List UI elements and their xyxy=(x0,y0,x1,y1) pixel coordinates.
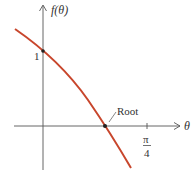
function-plot xyxy=(0,0,195,177)
x-axis-label: θ xyxy=(184,120,190,132)
y-axis-label: f(θ) xyxy=(51,4,68,16)
root-point xyxy=(103,124,107,128)
root-leader-line xyxy=(109,112,116,122)
y-intercept-label: 1 xyxy=(34,51,40,62)
function-curve xyxy=(15,29,131,168)
root-label: Root xyxy=(117,106,138,117)
pi-label: π xyxy=(143,134,149,145)
y-intercept-point xyxy=(41,49,45,53)
four-label: 4 xyxy=(144,148,150,159)
